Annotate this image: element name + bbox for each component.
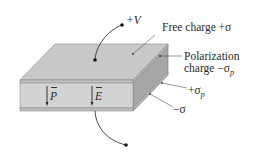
top-wire-contact-dot <box>93 58 97 62</box>
polarization-charge-text: charge −σ <box>184 62 230 74</box>
minus-sigma-label: −σ <box>173 103 186 115</box>
top-terminal-dot <box>120 23 124 27</box>
bottom-terminal-dot <box>124 143 128 147</box>
voltage-label: +V <box>126 14 141 26</box>
vector-e-accent-icon <box>96 87 102 88</box>
vector-p-accent-icon <box>51 87 57 88</box>
polarization-sub: p <box>230 68 234 77</box>
minus-sigma-leader-dot <box>149 93 151 95</box>
free-charge-leader-dot <box>132 53 134 55</box>
plus-sigma-p-leader-dot <box>161 82 163 84</box>
plus-sigma-p-leader <box>162 83 187 88</box>
bottom-wire <box>95 111 126 145</box>
minus-sigma-leader <box>150 94 173 107</box>
vector-p-label: P <box>50 90 57 102</box>
free-charge-label: Free charge +σ <box>162 21 231 33</box>
polarization-charge-leader-dot <box>159 55 161 57</box>
front-dielectric <box>20 83 133 108</box>
front-top-plate <box>20 80 133 83</box>
dielectric-capacitor-diagram: +V Free charge +σ Polarization charge −σ… <box>0 0 253 166</box>
polarization-label-line1: Polarization <box>184 50 240 62</box>
plus-sigma-sub: p <box>201 90 205 99</box>
front-bottom-plate <box>20 108 133 111</box>
plus-sigma-p-label: +σp <box>188 84 205 98</box>
plus-sigma-text: +σ <box>188 84 201 96</box>
vector-e-label: E <box>95 90 102 102</box>
polarization-label-line2: charge −σp <box>184 62 234 76</box>
